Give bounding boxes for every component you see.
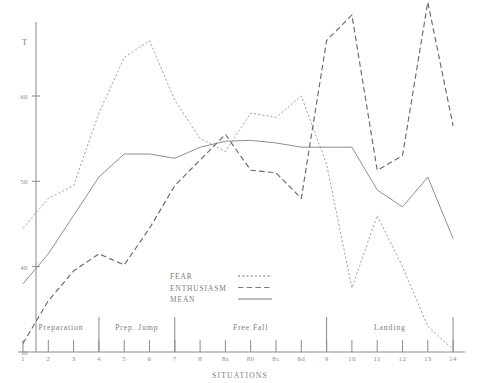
legend-label-fear: FEAR <box>170 272 193 281</box>
legend-label-mean: MEAN <box>170 295 195 304</box>
phase-label: Prep. Jump <box>115 323 158 332</box>
x-tick-label: 6 <box>148 355 152 363</box>
x-axis-title: SITUATIONS <box>212 371 268 380</box>
x-tick-label: 8a <box>222 355 230 363</box>
y-tick-label: 60 <box>20 93 28 101</box>
x-tick-label: 8d <box>297 355 305 363</box>
phase-label: Free Fall <box>233 323 268 332</box>
y-axis-label: T <box>22 38 27 47</box>
x-tick-label: 8 <box>198 355 202 363</box>
legend-label-enthusiasm: ENTHUSIASM <box>170 284 227 293</box>
x-tick-label: 13 <box>424 355 432 363</box>
chart-axes <box>18 22 465 352</box>
x-tick-label: 10 <box>348 355 356 363</box>
phase-label: Landing <box>374 323 406 332</box>
x-tick-label: 9 <box>325 355 329 363</box>
series-line-enthusiasm <box>23 2 453 343</box>
x-tick-label: 12 <box>399 355 407 363</box>
x-tick-label: 2 <box>46 355 50 363</box>
line-chart-plot: 30405060 123456788a8b8c8d91011121314 Pre… <box>0 0 480 383</box>
phase-labels: PreparationPrep. JumpFree FallLanding <box>38 323 405 332</box>
data-series-group <box>23 2 453 349</box>
x-tick-label: 1 <box>21 355 25 363</box>
y-tick-label: 50 <box>20 178 28 186</box>
y-tick-label: 40 <box>20 264 28 272</box>
phase-label: Preparation <box>38 323 83 332</box>
x-tick-label: 5 <box>122 355 126 363</box>
x-tick-label: 8c <box>272 355 279 363</box>
x-tick-label: 3 <box>72 355 76 363</box>
chart-container: 30405060 123456788a8b8c8d91011121314 Pre… <box>0 0 480 383</box>
x-tick-label: 4 <box>97 355 101 363</box>
y-axis-ticks: 30405060 <box>20 93 40 357</box>
x-tick-label: 8b <box>247 355 255 363</box>
x-tick-label: 11 <box>373 355 381 363</box>
x-tick-label: 14 <box>449 355 457 363</box>
chart-legend: FEARENTHUSIASMMEAN <box>170 272 272 304</box>
x-tick-label: 7 <box>173 355 177 363</box>
